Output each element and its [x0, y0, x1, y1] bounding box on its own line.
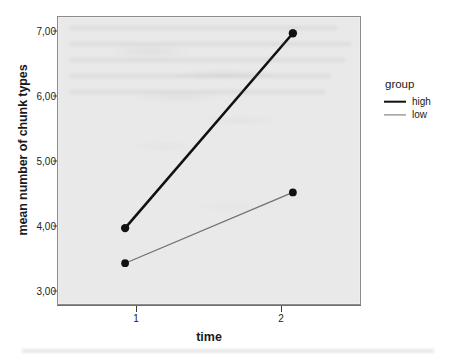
y-axis-ticks: 7,00 6,00 5,00 4,00 3,00 [8, 0, 56, 354]
legend-label-high: high [412, 96, 431, 107]
plot-area [57, 16, 361, 305]
data-point-high-t2[interactable] [289, 29, 297, 37]
y-tick-label-7: 7,00 [14, 26, 56, 37]
x-tick-mark-1 [136, 306, 137, 312]
x-axis-line [57, 305, 361, 306]
legend-line-swatch-high [383, 97, 407, 107]
legend-title: group [383, 78, 457, 90]
legend-item-high[interactable]: high [383, 95, 457, 108]
data-series-layer [58, 17, 360, 304]
legend-label-low: low [412, 109, 427, 120]
data-point-low-t1[interactable] [121, 259, 129, 267]
x-tick-label-1: 1 [121, 313, 151, 324]
y-tick-label-4: 4,00 [14, 221, 56, 232]
data-point-high-t1[interactable] [121, 224, 129, 232]
legend-line-swatch-low [383, 110, 407, 120]
data-point-low-t2[interactable] [289, 189, 297, 197]
y-tick-label-3: 3,00 [14, 286, 56, 297]
scan-artifact-line [22, 349, 434, 353]
x-tick-label-2: 2 [266, 313, 296, 324]
line-chart-figure: mean number of chunk types 7,00 6,00 5,0… [0, 0, 457, 354]
series-line-low [125, 192, 293, 263]
y-tick-label-6: 6,00 [14, 91, 56, 102]
x-tick-mark-2 [281, 306, 282, 312]
legend-item-low[interactable]: low [383, 108, 457, 121]
y-tick-label-5: 5,00 [14, 156, 56, 167]
series-line-high [125, 33, 293, 228]
x-axis-title: time [57, 330, 361, 344]
legend: group high low [383, 78, 457, 121]
